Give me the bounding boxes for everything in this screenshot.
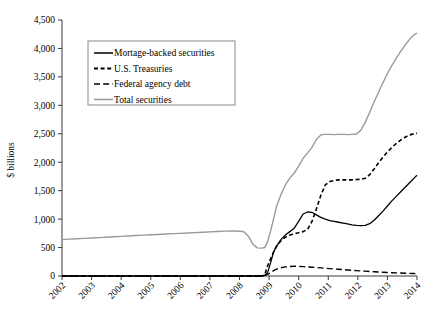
y-axis-title: $ billions [6, 142, 16, 178]
x-tick-label: 2014 [402, 280, 423, 301]
x-tick-label: 2008 [224, 280, 245, 301]
series-line-0 [62, 175, 417, 276]
series-line-2 [62, 266, 417, 276]
x-tick-label: 2007 [195, 280, 216, 301]
x-tick-label: 2002 [47, 280, 68, 301]
y-tick-label: 2,000 [34, 158, 56, 168]
legend-label-0: Mortage-backed securities [114, 48, 215, 58]
x-tick-label: 2011 [313, 280, 333, 300]
x-axis-ticks: 2002200320042005200620072008200920102011… [47, 276, 423, 301]
x-tick-label: 2010 [284, 280, 305, 301]
y-tick-label: 1,500 [34, 186, 56, 196]
x-tick-label: 2013 [372, 280, 393, 301]
series-line-1 [62, 133, 417, 276]
x-tick-label: 2012 [343, 280, 364, 301]
y-axis-title-group: $ billions [6, 142, 16, 178]
x-tick-label: 2004 [106, 280, 127, 301]
y-tick-label: 4,500 [34, 15, 56, 25]
chart-legend: Mortage-backed securitiesU.S. Treasuries… [88, 41, 235, 105]
legend-label-2: Federal agency debt [114, 79, 191, 89]
y-tick-label: 500 [41, 243, 56, 253]
x-tick-label: 2005 [136, 280, 157, 301]
securities-holdings-line-chart: $ billions 05001,0001,5002,0002,5003,000… [0, 0, 438, 326]
y-axis-ticks: 05001,0001,5002,0002,5003,0003,5004,0004… [34, 15, 62, 281]
legend-label-3: Total securities [114, 95, 172, 105]
y-tick-label: 0 [50, 271, 55, 281]
legend-label-1: U.S. Treasuries [114, 64, 173, 74]
y-tick-label: 2,500 [34, 129, 56, 139]
y-tick-label: 4,000 [34, 44, 56, 54]
y-tick-label: 3,000 [34, 101, 56, 111]
y-tick-label: 1,000 [34, 215, 56, 225]
x-tick-label: 2006 [165, 280, 186, 301]
y-tick-label: 3,500 [34, 72, 56, 82]
x-tick-label: 2003 [76, 280, 97, 301]
x-tick-label: 2009 [254, 280, 275, 301]
chart-container: $ billions 05001,0001,5002,0002,5003,000… [0, 0, 438, 326]
